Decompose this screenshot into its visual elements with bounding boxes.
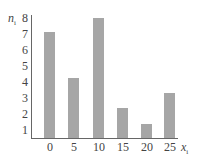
x-axis-label: xi (181, 141, 188, 158)
y-axis-label: ni (8, 12, 16, 29)
bar-5 (68, 78, 79, 138)
x-tick-15: 15 (113, 141, 133, 153)
bar-10 (93, 18, 104, 138)
y-tick-3: 3 (16, 92, 28, 104)
x-tick-10: 10 (89, 141, 109, 153)
bar-15 (117, 108, 128, 138)
x-tick-20: 20 (137, 141, 157, 153)
bar-25 (164, 93, 175, 138)
y-tick-1: 1 (16, 124, 28, 136)
y-tick-4: 4 (16, 76, 28, 88)
y-tick-5: 5 (16, 60, 28, 72)
y-tick-6: 6 (16, 44, 28, 56)
x-tick-5: 5 (64, 141, 84, 153)
x-tick-0: 0 (40, 141, 60, 153)
x-tick-25: 25 (160, 141, 180, 153)
bar-chart: ni 1 2 3 4 5 6 7 8 0 5 10 15 20 25 xi (0, 0, 198, 158)
bar-20 (141, 124, 152, 138)
y-tick-8: 8 (16, 12, 28, 24)
y-axis (31, 15, 32, 139)
bar-0 (44, 32, 55, 138)
x-axis (31, 138, 178, 139)
y-tick-7: 7 (16, 28, 28, 40)
y-tick-2: 2 (16, 108, 28, 120)
